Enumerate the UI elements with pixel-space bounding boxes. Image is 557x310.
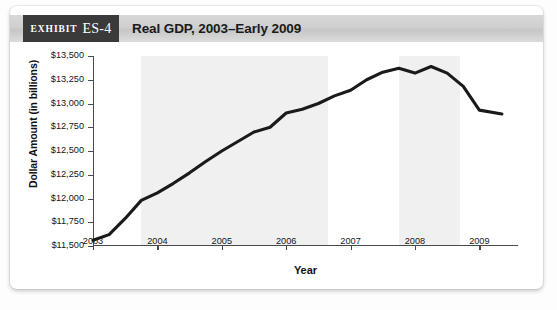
screenshot-root: Exhibit ES-4 Real GDP, 2003–Early 2009 D…	[0, 0, 557, 310]
x-tick-label-0: 2003	[83, 236, 103, 246]
chart-area: Dollar Amount (in billions) $11,500$11,7…	[10, 42, 543, 289]
y-tick-label-2: $12,000	[51, 193, 84, 203]
y-tick-label-1: $11,750	[51, 216, 84, 226]
plot-region: $11,500$11,750$12,000$12,250$12,500$12,7…	[93, 56, 518, 246]
y-tick-label-4: $12,500	[51, 145, 84, 155]
x-tick-2	[222, 246, 223, 250]
x-axis-label: Year	[93, 264, 518, 276]
x-tick-4	[351, 246, 352, 250]
y-tick-label-6: $13,000	[51, 98, 84, 108]
x-tick-3	[286, 246, 287, 250]
chart-title: Real GDP, 2003–Early 2009	[132, 15, 301, 42]
y-axis-label: Dollar Amount (in billions)	[27, 39, 39, 209]
exhibit-label: Exhibit	[31, 24, 78, 34]
x-tick-label-5: 2008	[405, 236, 425, 246]
x-tick-label-3: 2006	[276, 236, 296, 246]
y-tick-label-5: $12,750	[51, 121, 84, 131]
x-tick-5	[415, 246, 416, 250]
x-tick-label-6: 2009	[469, 236, 489, 246]
y-tick-label-3: $12,250	[51, 169, 84, 179]
exhibit-number: ES-4	[83, 21, 112, 37]
x-tick-label-4: 2007	[340, 236, 360, 246]
exhibit-tag: Exhibit ES-4	[23, 15, 119, 42]
x-tick-label-1: 2004	[147, 236, 167, 246]
exhibit-card: Exhibit ES-4 Real GDP, 2003–Early 2009 D…	[10, 6, 543, 289]
x-tick-1	[157, 246, 158, 250]
y-tick-label-0: $11,500	[51, 240, 84, 250]
x-tick-0	[93, 246, 94, 250]
y-tick-label-8: $13,500	[51, 50, 84, 60]
gdp-series-line	[93, 66, 502, 240]
x-tick-label-2: 2005	[212, 236, 232, 246]
x-tick-6	[479, 246, 480, 250]
y-tick-label-7: $13,250	[51, 74, 84, 84]
gdp-line-chart	[93, 56, 518, 246]
